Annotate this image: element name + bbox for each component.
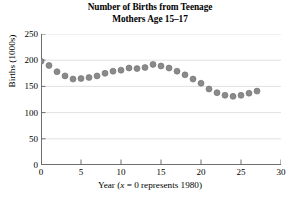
data-point — [78, 76, 84, 82]
x-axis-tick-labels: 051015202530 — [41, 167, 281, 179]
data-point — [70, 76, 76, 82]
x-tick-label-30: 30 — [269, 167, 293, 177]
data-point — [46, 62, 52, 68]
chart-title-line-1: Number of Births from Teenage — [0, 2, 300, 14]
data-point — [190, 76, 196, 82]
x-axis-title-suffix: = 0 represents 1980) — [124, 180, 202, 190]
data-point — [182, 72, 188, 78]
chart-figure: Number of Births from Teenage Mothers Ag… — [0, 0, 300, 199]
data-point — [54, 69, 60, 75]
data-point — [150, 61, 156, 67]
x-tick-label-5: 5 — [69, 167, 93, 177]
data-point — [238, 92, 244, 98]
x-tick-label-10: 10 — [109, 167, 133, 177]
x-tick-label-15: 15 — [149, 167, 173, 177]
data-point — [41, 58, 44, 64]
gridlines — [41, 34, 281, 139]
data-point — [142, 65, 148, 71]
x-tick-label-20: 20 — [189, 167, 213, 177]
x-tick-label-25: 25 — [229, 167, 253, 177]
data-point — [158, 63, 164, 69]
y-tick-label-250: 250 — [0, 30, 38, 39]
axis-lines — [41, 34, 281, 165]
y-tick-label-100: 100 — [0, 108, 38, 117]
data-point — [198, 80, 204, 86]
chart-title: Number of Births from Teenage Mothers Ag… — [0, 2, 300, 25]
x-axis-title: Year (x = 0 represents 1980) — [0, 180, 300, 190]
y-tick-label-200: 200 — [0, 56, 38, 65]
data-point — [206, 86, 212, 92]
data-point — [134, 66, 140, 72]
scatter-plot-svg — [41, 34, 281, 165]
data-point — [174, 68, 180, 74]
data-point — [118, 67, 124, 73]
y-tick-label-150: 150 — [0, 82, 38, 91]
data-point — [126, 65, 132, 71]
data-point — [166, 65, 172, 71]
data-point — [246, 90, 252, 96]
data-point — [214, 90, 220, 96]
x-axis-title-prefix: Year ( — [98, 180, 120, 190]
y-axis-tick-labels: 050100150200250 — [0, 34, 38, 165]
data-point — [254, 88, 260, 94]
axis-ticks — [41, 34, 281, 165]
data-point — [110, 68, 116, 74]
chart-title-line-2: Mothers Age 15–17 — [0, 14, 300, 26]
y-tick-label-50: 50 — [0, 134, 38, 143]
data-point — [102, 70, 108, 76]
data-point — [62, 73, 68, 79]
data-point-series — [41, 58, 260, 99]
data-point — [94, 73, 100, 79]
data-point — [86, 74, 92, 80]
plot-area — [41, 34, 281, 165]
x-tick-label-0: 0 — [29, 167, 53, 177]
data-point — [222, 92, 228, 98]
data-point — [230, 93, 236, 99]
